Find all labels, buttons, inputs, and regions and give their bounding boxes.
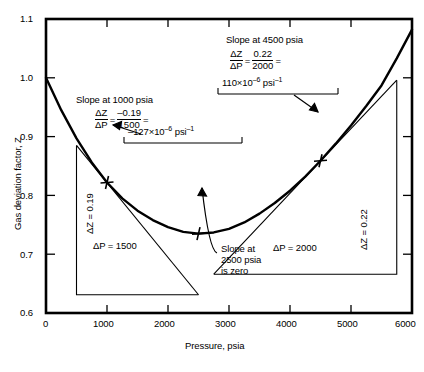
x-tick-label-1000: 1000	[93, 318, 114, 329]
slope-4500-value-fraction: 0.22 2000	[252, 49, 273, 71]
slope-1000-result-value: –127×10	[128, 126, 165, 137]
y-tick-label-1.0: 1.0	[20, 72, 33, 83]
slope-4500-delta-z: ΔZ	[230, 49, 242, 59]
slope-1000-result-exponent: –6	[165, 125, 173, 132]
x-tick-label-6000: 6000	[395, 318, 416, 329]
y-tick-label-0.7: 0.7	[20, 249, 33, 260]
slope-1000-result-units-exponent: –1	[187, 125, 195, 132]
slope-4500-value-denominator: 2000	[252, 61, 273, 71]
x-tick-label-5000: 5000	[337, 318, 358, 329]
y-tick-label-1.1: 1.1	[20, 13, 33, 24]
slope-4500-heading: Slope at 4500 psia	[226, 34, 303, 45]
slope-4500-result: 110×10–6 psi–1	[222, 77, 282, 88]
y-axis-title: Gas deviation factor, Z	[12, 137, 23, 230]
slope-1000-equals: =	[110, 114, 116, 125]
slope-1000-result: –127×10–6 psi–1	[128, 126, 194, 137]
slope-4500-result-units-exponent: –1	[275, 76, 283, 83]
slope-1000-value-numerator: –0.19	[117, 108, 141, 118]
slope-1000-heading: Slope at 1000 psia	[76, 94, 153, 105]
gas-deviation-factor-chart: 1.1 1.0 0.9 0.8 0.7 0.6 0 1000 2000 3000…	[0, 0, 424, 372]
slope-4500-delta-p: ΔP	[230, 61, 243, 71]
slope-4500-result-units: psi	[263, 77, 275, 88]
slope-4500-result-exponent: –6	[253, 76, 261, 83]
slope-1000-delta-p: ΔP	[95, 120, 108, 130]
slope-4500-result-value: 110×10	[222, 77, 253, 88]
slope-4500-ratio-fraction: ΔZ ΔP	[230, 49, 243, 71]
x-tick-label-3000: 3000	[215, 318, 236, 329]
slope-1000-result-units: psi	[175, 126, 187, 137]
y-axis-ticks	[46, 19, 55, 313]
tangency-markers	[101, 154, 328, 240]
slope-1000-delta-z: ΔZ	[95, 108, 107, 118]
x-tick-label-4000: 4000	[276, 318, 297, 329]
slope-1000-trailing-equals: =	[143, 114, 149, 125]
y-tick-label-0.6: 0.6	[20, 307, 33, 318]
triangle-right-delta-z-label: ΔZ = 0.22	[358, 209, 369, 250]
z-factor-curve	[46, 30, 412, 234]
x-tick-label-0: 0	[43, 318, 48, 329]
slope-1000-ratio-fraction: ΔZ ΔP	[95, 108, 108, 130]
triangle-left-delta-p-label: ΔP = 1500	[93, 240, 137, 251]
plot-canvas	[0, 0, 424, 372]
triangle-right-delta-p-label: ΔP = 2000	[273, 242, 317, 253]
triangle-left-delta-z-label: ΔZ = 0.19	[84, 193, 95, 234]
slope-4500-equals: =	[245, 55, 251, 66]
slope-2500-line1: Slope at	[221, 243, 255, 254]
x-tick-label-2000: 2000	[154, 318, 175, 329]
y-axis-ticks-right	[403, 78, 412, 254]
slope-4500-equation: ΔZ ΔP = 0.22 2000 =	[230, 49, 281, 71]
x-axis-title: Pressure, psia	[185, 340, 244, 351]
slope-4500-value-numerator: 0.22	[254, 49, 273, 59]
slope-4500-trailing-equals: =	[275, 55, 281, 66]
slope-2500-line2: 2500 psia	[221, 254, 261, 265]
slope-2500-line3: is zero	[221, 265, 248, 276]
